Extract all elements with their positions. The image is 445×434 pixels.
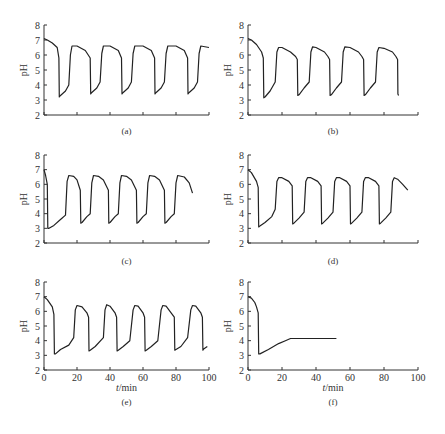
chart-panel-c: 2345678pH(c)	[18, 150, 209, 267]
y-tick-label: 7	[35, 35, 40, 46]
y-tick-label: 8	[35, 20, 40, 31]
y-tick-label: 6	[35, 50, 40, 61]
x-tick-label: 40	[311, 372, 321, 383]
y-tick-label: 5	[239, 321, 244, 332]
x-tick-label: 100	[202, 372, 217, 383]
ph-curve	[44, 297, 207, 354]
x-tick-label: 100	[411, 372, 426, 383]
y-tick-label: 2	[35, 365, 40, 376]
y-tick-label: 5	[35, 65, 40, 76]
x-tick-label: 40	[105, 372, 115, 383]
panel-caption: (f)	[329, 397, 338, 407]
y-tick-label: 6	[239, 306, 244, 317]
y-tick-label: 7	[35, 164, 40, 175]
chart-panel-a: 2345678pH(a)	[18, 20, 209, 137]
x-tick-label: 60	[138, 372, 148, 383]
y-tick-label: 2	[239, 238, 244, 249]
y-tick-label: 7	[239, 291, 244, 302]
y-tick-label: 4	[35, 335, 40, 346]
chart-panel-b: 2345678pH(b)	[222, 20, 418, 137]
y-tick-label: 2	[239, 110, 244, 121]
x-axis-label: t/min	[322, 382, 343, 393]
y-tick-label: 5	[35, 194, 40, 205]
y-tick-label: 5	[239, 194, 244, 205]
y-tick-label: 3	[239, 350, 244, 361]
panel-caption: (b)	[328, 126, 339, 136]
y-tick-label: 8	[239, 150, 244, 161]
x-tick-label: 0	[246, 372, 251, 383]
figure-canvas: 2345678pH(a)2345678pH(b)2345678pH(c)2345…	[0, 0, 445, 434]
chart-panel-e: 2345678020406080100pHt/min(e)	[18, 277, 217, 408]
ph-curve	[44, 170, 193, 229]
chart-panel-f: 2345678020406080100pHt/min(f)	[222, 277, 426, 408]
x-tick-label: 60	[345, 372, 355, 383]
y-axis-label: pH	[18, 320, 29, 332]
panel-caption: (a)	[122, 126, 132, 136]
y-tick-label: 4	[239, 80, 244, 91]
y-tick-label: 6	[239, 50, 244, 61]
y-tick-label: 8	[239, 277, 244, 288]
y-tick-label: 3	[35, 350, 40, 361]
y-tick-label: 5	[35, 321, 40, 332]
y-tick-label: 8	[35, 150, 40, 161]
chart-panel-d: 2345678pH(d)	[222, 150, 418, 267]
ph-curve	[44, 39, 209, 98]
y-tick-label: 6	[35, 179, 40, 190]
x-axis-label: t/min	[116, 382, 137, 393]
y-tick-label: 8	[35, 277, 40, 288]
y-tick-label: 4	[35, 208, 40, 219]
x-tick-label: 20	[277, 372, 287, 383]
y-tick-label: 3	[239, 95, 244, 106]
y-tick-label: 6	[239, 179, 244, 190]
panel-caption: (d)	[328, 256, 339, 266]
y-tick-label: 4	[35, 80, 40, 91]
y-tick-label: 2	[35, 110, 40, 121]
panel-caption: (e)	[122, 397, 132, 407]
y-tick-label: 4	[239, 335, 244, 346]
y-axis-label: pH	[222, 64, 233, 76]
y-tick-label: 3	[35, 95, 40, 106]
ph-curve	[248, 297, 336, 354]
y-tick-label: 2	[239, 365, 244, 376]
y-tick-label: 5	[239, 65, 244, 76]
y-axis-label: pH	[18, 64, 29, 76]
ph-curve	[248, 170, 408, 227]
y-axis-label: pH	[18, 193, 29, 205]
y-axis-label: pH	[222, 320, 233, 332]
y-tick-label: 7	[239, 35, 244, 46]
y-tick-label: 3	[35, 223, 40, 234]
y-axis-label: pH	[222, 193, 233, 205]
ph-curve	[248, 39, 399, 98]
x-tick-label: 0	[42, 372, 47, 383]
y-tick-label: 8	[239, 20, 244, 31]
y-tick-label: 4	[239, 208, 244, 219]
x-tick-label: 20	[72, 372, 82, 383]
x-tick-label: 80	[171, 372, 181, 383]
x-tick-label: 80	[379, 372, 389, 383]
panel-caption: (c)	[122, 256, 132, 266]
y-tick-label: 7	[35, 291, 40, 302]
y-tick-label: 7	[239, 164, 244, 175]
y-tick-label: 3	[239, 223, 244, 234]
y-tick-label: 2	[35, 238, 40, 249]
y-tick-label: 6	[35, 306, 40, 317]
